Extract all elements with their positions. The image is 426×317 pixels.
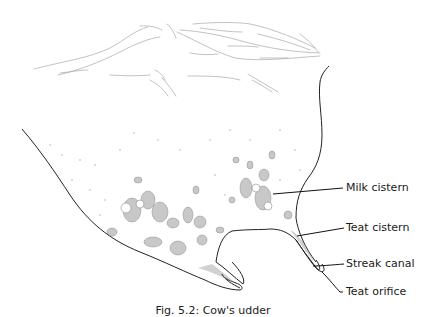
udder-outline bbox=[22, 66, 329, 290]
label-teat-cistern: Teat cistern bbox=[346, 222, 409, 234]
glandular-tissue bbox=[107, 151, 292, 255]
label-milk-cistern: Milk cistern bbox=[346, 182, 409, 194]
label-streak-canal: Streak canal bbox=[346, 258, 415, 270]
label-teat-orifice: Teat orifice bbox=[346, 286, 406, 298]
teat-shading bbox=[198, 230, 314, 284]
body-sketch-lines bbox=[34, 23, 320, 97]
leader-lines bbox=[273, 188, 344, 292]
figure-caption: Fig. 5.2: Cow's udder bbox=[0, 304, 426, 317]
